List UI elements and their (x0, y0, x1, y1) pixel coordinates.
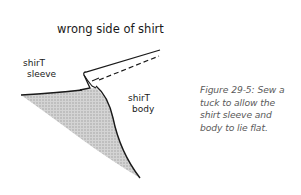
caption-line: Figure 29-5: Sew a (200, 84, 300, 97)
label-body-2: body (132, 104, 155, 114)
figure-29-5: wrong side of shirt shirT sleeve shirT b… (0, 0, 301, 195)
tuck-fold-inner (84, 75, 96, 88)
tuck-fold-under (92, 78, 99, 81)
shaded-fabric (21, 88, 140, 178)
caption-line: tuck to allow the (200, 97, 300, 110)
label-sleeve-2: sleeve (27, 69, 57, 79)
label-body-1: shirT (128, 93, 151, 103)
caption-line: body to lie flat. (200, 122, 300, 135)
label-sleeve-1: shirT (23, 58, 46, 68)
figure-caption: Figure 29-5: Sew a tuck to allow the shi… (200, 84, 300, 134)
label-wrong-side: wrong side of shirt (57, 22, 164, 36)
caption-line: shirt sleeve and (200, 109, 300, 122)
tuck-fold (80, 50, 160, 90)
